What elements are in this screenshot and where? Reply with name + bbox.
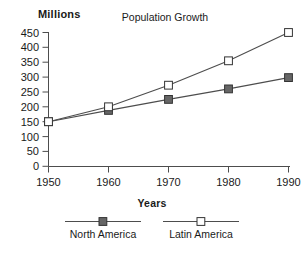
- x-axis-title: Years: [0, 197, 304, 209]
- data-point-marker: [45, 118, 53, 126]
- y-tick-label: 200: [21, 101, 39, 113]
- legend-key-open-square-icon: [159, 215, 243, 228]
- chart-page: Millions Population Growth 450 400 350: [0, 0, 304, 255]
- series-line: [49, 33, 289, 122]
- x-tick-label: 1960: [96, 176, 120, 188]
- x-tick-label: 1950: [36, 176, 60, 188]
- data-point-marker: [225, 57, 233, 65]
- data-point-marker: [165, 81, 173, 89]
- y-tick-label: 300: [21, 71, 39, 83]
- y-tick-label: 400: [21, 41, 39, 53]
- data-point-marker: [105, 103, 113, 111]
- series-markers: [45, 29, 293, 126]
- y-tick-label: 50: [27, 145, 39, 157]
- x-tick-label: 1980: [216, 176, 240, 188]
- legend-label: North America: [70, 228, 137, 241]
- x-tick-label: 1970: [156, 176, 180, 188]
- x-axis-tick-labels: 1950 1960 1970 1980 1990: [36, 176, 300, 188]
- data-point-marker: [285, 74, 293, 82]
- y-tick-label: 250: [21, 86, 39, 98]
- y-tick-label: 150: [21, 116, 39, 128]
- legend-item-latin-america[interactable]: Latin America: [159, 215, 243, 241]
- y-tick-label: 0: [33, 160, 39, 172]
- legend-label: Latin America: [169, 228, 233, 241]
- legend-item-north-america[interactable]: North America: [61, 215, 145, 241]
- data-point-marker: [165, 96, 173, 104]
- y-tick-label: 450: [21, 27, 39, 39]
- chart-legend: North America Latin America: [0, 215, 304, 241]
- y-tick-label: 350: [21, 56, 39, 68]
- line-chart-plot: 450 400 350 300 250 200 150 100 50 0: [0, 0, 304, 195]
- series-latin-america: [45, 29, 293, 126]
- legend-key-filled-square-icon: [61, 215, 145, 228]
- y-tick-label: 100: [21, 131, 39, 143]
- x-axis-group: 1950 1960 1970 1980 1990: [36, 167, 300, 189]
- y-axis-ticks: [43, 33, 49, 167]
- x-tick-label: 1990: [276, 176, 300, 188]
- data-point-marker: [225, 85, 233, 93]
- y-axis-group: 450 400 350 300 250 200 150 100 50 0: [21, 27, 49, 173]
- x-axis-ticks: [49, 167, 289, 173]
- y-axis-tick-labels: 450 400 350 300 250 200 150 100 50 0: [21, 27, 39, 173]
- data-point-marker: [285, 29, 293, 37]
